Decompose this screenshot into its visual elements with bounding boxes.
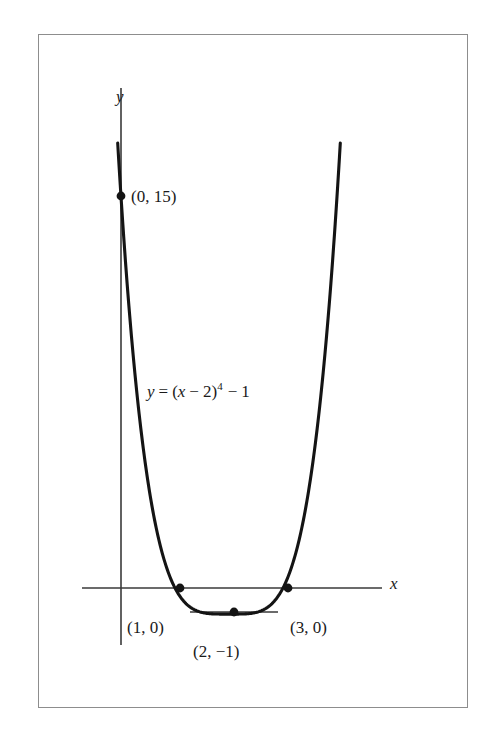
y-axis-label: y [116, 88, 124, 105]
equation-variable: x [178, 382, 186, 401]
equation-minus-a: − [189, 382, 199, 401]
marked-points-group [117, 192, 293, 617]
point-root-left [176, 584, 185, 593]
equation-minus-b: − [228, 382, 238, 401]
curve-equation-label: y=(x−2)4−1 [147, 381, 250, 400]
equation-exponent: 4 [217, 380, 223, 392]
point-root-right [284, 584, 293, 593]
plot-canvas [0, 0, 493, 740]
point-y-intercept [117, 192, 126, 201]
label-root-left: (1, 0) [127, 619, 164, 636]
quartic-curve [118, 143, 341, 614]
equation-lhs: y [147, 382, 155, 401]
label-root-right: (3, 0) [290, 619, 327, 636]
label-y-intercept: (0, 15) [131, 188, 176, 205]
axis-group [82, 88, 382, 645]
label-vertex: (2, −1) [193, 643, 239, 660]
figure-root: y x (0, 15) (1, 0) (2, −1) (3, 0) y=(x−2… [0, 0, 493, 740]
x-axis-label: x [390, 575, 398, 592]
point-vertex [230, 608, 239, 617]
equation-equals: = [159, 382, 169, 401]
equation-constant: 1 [241, 382, 250, 401]
